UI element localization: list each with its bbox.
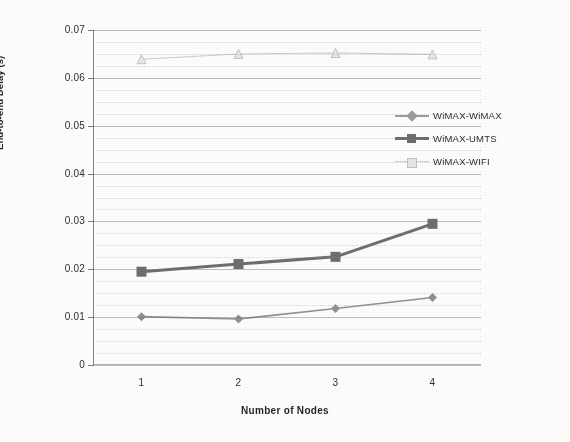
y-axis-tick-label: 0.05 [37, 120, 85, 131]
y-axis-tick [88, 221, 94, 222]
gridline-minor [93, 257, 481, 259]
legend-label: WiMAX-UMTS [433, 133, 497, 144]
chart-legend: WiMAX-WiMAX WiMAX-UMTS WiMAX-WIFI [395, 104, 545, 173]
x-axis-title: Number of Nodes [0, 405, 570, 416]
series-wimax-wifi [137, 48, 437, 63]
gridline-major [93, 30, 481, 32]
legend-marker-square-icon [395, 133, 429, 145]
legend-label: WiMAX-WIFI [433, 156, 490, 167]
legend-item-wimax-wifi: WiMAX-WIFI [395, 150, 545, 173]
y-axis-tick-label: 0.06 [37, 72, 85, 83]
gridline-major [93, 221, 481, 223]
gridline-minor [93, 66, 481, 68]
data-point-marker [137, 267, 147, 277]
y-axis-tick [88, 269, 94, 270]
y-axis-tick [88, 174, 94, 175]
legend-marker-diamond-icon [395, 110, 429, 122]
series-wimax-umts [137, 219, 438, 277]
y-axis-tick [88, 126, 94, 127]
data-point-marker [428, 219, 438, 229]
gridline-minor [93, 54, 481, 56]
legend-marker-triangle-icon [395, 156, 429, 168]
y-axis-tick [88, 365, 94, 366]
plot-area [93, 30, 481, 365]
gridline-minor [93, 186, 481, 188]
x-axis-tick-label: 2 [219, 377, 259, 388]
gridline-major [93, 269, 481, 271]
x-axis-tick-label: 4 [413, 377, 453, 388]
y-axis-tick-label: 0.07 [37, 24, 85, 35]
legend-item-wimax-umts: WiMAX-UMTS [395, 127, 545, 150]
gridline-major [93, 317, 481, 319]
y-axis-tick-label: 0 [37, 359, 85, 370]
gridline-minor [93, 305, 481, 307]
gridline-minor [93, 353, 481, 355]
y-axis-tick [88, 30, 94, 31]
data-point-marker [234, 259, 244, 269]
gridline-major [93, 78, 481, 80]
y-axis-tick [88, 78, 94, 79]
gridline-minor [93, 198, 481, 200]
legend-label: WiMAX-WiMAX [433, 110, 502, 121]
gridline-minor [93, 281, 481, 283]
gridline-minor [93, 42, 481, 44]
legend-item-wimax-wimax: WiMAX-WiMAX [395, 104, 545, 127]
x-axis-tick-label: 3 [316, 377, 356, 388]
gridline-minor [93, 233, 481, 235]
y-axis-tick-label: 0.03 [37, 215, 85, 226]
gridline-minor [93, 341, 481, 343]
y-axis-tick [88, 317, 94, 318]
gridline-minor [93, 245, 481, 247]
x-axis-tick-label: 1 [122, 377, 162, 388]
y-axis-tick-label: 0.01 [37, 311, 85, 322]
y-axis-tick-label: 0.02 [37, 263, 85, 274]
gridline-minor [93, 293, 481, 295]
gridline-minor [93, 90, 481, 92]
y-axis-tick-label: 0.04 [37, 168, 85, 179]
gridline-major [93, 174, 481, 176]
gridline-minor [93, 329, 481, 331]
gridline-major [93, 365, 481, 367]
y-axis-title: End-to-end Delay (s) [0, 56, 5, 150]
gridline-minor [93, 209, 481, 211]
chart-page: End-to-end Delay (s) 00.010.020.030.040.… [0, 0, 570, 442]
